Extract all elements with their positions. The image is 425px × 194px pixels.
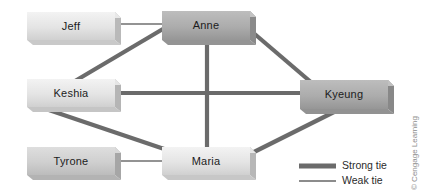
node-maria-face bbox=[162, 147, 250, 175]
legend: Strong tie Weak tie bbox=[299, 159, 387, 186]
node-keshia-bottom bbox=[27, 107, 121, 112]
node-jeff[interactable]: Jeff bbox=[27, 12, 121, 45]
legend-item-weak: Weak tie bbox=[299, 174, 383, 186]
network-diagram: Jeff Anne Keshia Kyeung bbox=[0, 0, 425, 194]
edge-anne-kyeung bbox=[250, 30, 312, 83]
node-anne-face bbox=[162, 11, 250, 40]
node-jeff-face bbox=[27, 12, 115, 40]
edge-maria-kyeung bbox=[248, 109, 340, 155]
network-canvas: Jeff Anne Keshia Kyeung bbox=[0, 0, 425, 194]
edge-keshia-maria bbox=[40, 107, 176, 153]
node-jeff-bottom bbox=[27, 40, 121, 45]
node-maria-bottom bbox=[162, 175, 256, 180]
node-kyeung[interactable]: Kyeung bbox=[300, 80, 394, 114]
node-kyeung-bottom bbox=[300, 109, 394, 114]
node-tyrone-face bbox=[27, 147, 115, 175]
legend-label-strong-tie: Strong tie bbox=[342, 159, 387, 171]
node-anne[interactable]: Anne bbox=[162, 11, 256, 45]
node-keshia[interactable]: Keshia bbox=[27, 79, 121, 112]
legend-item-strong: Strong tie bbox=[299, 159, 387, 171]
node-anne-bottom bbox=[162, 40, 256, 45]
node-keshia-face bbox=[27, 79, 115, 107]
node-kyeung-face bbox=[300, 80, 388, 109]
credit-label: © Cengage Learning bbox=[410, 116, 419, 190]
node-tyrone-bottom bbox=[27, 175, 121, 180]
legend-label-weak-tie: Weak tie bbox=[342, 174, 383, 186]
node-tyrone[interactable]: Tyrone bbox=[27, 147, 121, 180]
credit-block: © Cengage Learning bbox=[410, 116, 419, 190]
node-maria[interactable]: Maria bbox=[162, 147, 256, 180]
